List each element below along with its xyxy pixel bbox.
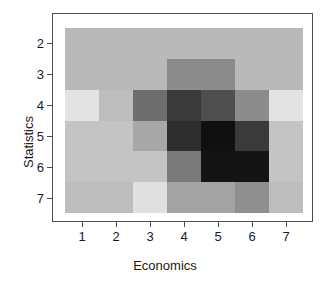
y-tick-mark-4 (47, 105, 52, 106)
heatmap-cell-x6-y7 (235, 182, 269, 213)
heatmap-cell-x2-y2 (99, 28, 133, 59)
x-tick-mark-3 (150, 222, 151, 227)
heatmap-cell-x1-y3 (65, 59, 99, 90)
heatmap-cell-x7-y4 (269, 90, 303, 121)
x-tick-mark-4 (184, 222, 185, 227)
y-tick-mark-7 (47, 198, 52, 199)
x-tick-label-4: 4 (180, 230, 187, 243)
x-tick-label-1: 1 (78, 230, 85, 243)
heatmap-cell-x7-y3 (269, 59, 303, 90)
heatmap-cell-x5-y3 (201, 59, 235, 90)
heatmap-cell-x4-y4 (167, 90, 201, 121)
y-tick-mark-6 (47, 167, 52, 168)
x-tick-mark-1 (82, 222, 83, 227)
heatmap-cell-x7-y7 (269, 182, 303, 213)
heatmap-cell-x1-y2 (65, 28, 99, 59)
heatmap-figure: Statistics 234567 1234567 Economics (0, 0, 330, 284)
y-tick-label-6: 6 (37, 160, 44, 173)
x-tick-label-6: 6 (248, 230, 255, 243)
heatmap-cell-x6-y5 (235, 121, 269, 152)
heatmap-cell-x3-y5 (133, 121, 167, 152)
y-axis: Statistics 234567 (0, 0, 52, 284)
x-tick-label-5: 5 (214, 230, 221, 243)
heatmap-cell-x4-y3 (167, 59, 201, 90)
heatmap-cell-x4-y5 (167, 121, 201, 152)
heatmap-cell-x1-y6 (65, 151, 99, 182)
heatmap-cell-x5-y2 (201, 28, 235, 59)
x-tick-mark-6 (252, 222, 253, 227)
heatmap-cell-x6-y6 (235, 151, 269, 182)
heatmap-cell-x5-y7 (201, 182, 235, 213)
heatmap-cell-x7-y2 (269, 28, 303, 59)
x-tick-mark-2 (116, 222, 117, 227)
heatmap-cell-x3-y6 (133, 151, 167, 182)
y-tick-mark-2 (47, 43, 52, 44)
heatmap-cell-x1-y4 (65, 90, 99, 121)
heatmap-cell-x4-y7 (167, 182, 201, 213)
x-tick-mark-7 (286, 222, 287, 227)
y-tick-label-4: 4 (37, 99, 44, 112)
x-tick-label-7: 7 (282, 230, 289, 243)
heatmap-cell-x6-y2 (235, 28, 269, 59)
heatmap-cell-x7-y5 (269, 121, 303, 152)
heatmap-cell-x2-y7 (99, 182, 133, 213)
heatmap-cell-x2-y5 (99, 121, 133, 152)
heatmap-cell-x4-y6 (167, 151, 201, 182)
heatmap-cell-x5-y6 (201, 151, 235, 182)
heatmap-cell-x1-y7 (65, 182, 99, 213)
heatmap-cell-x3-y7 (133, 182, 167, 213)
heatmap-cell-x5-y5 (201, 121, 235, 152)
y-axis-title: Statistics (21, 116, 36, 168)
heatmap-cell-x4-y2 (167, 28, 201, 59)
y-tick-label-7: 7 (37, 191, 44, 204)
y-tick-label-2: 2 (37, 37, 44, 50)
x-tick-mark-5 (218, 222, 219, 227)
heatmap-cell-x2-y4 (99, 90, 133, 121)
heatmap-cell-x5-y4 (201, 90, 235, 121)
heatmap-cell-x7-y6 (269, 151, 303, 182)
x-tick-label-3: 3 (146, 230, 153, 243)
y-tick-label-5: 5 (37, 129, 44, 142)
y-tick-mark-3 (47, 74, 52, 75)
y-tick-mark-5 (47, 136, 52, 137)
y-tick-label-3: 3 (37, 68, 44, 81)
heatmap-cell-x3-y3 (133, 59, 167, 90)
x-axis-title: Economics (0, 258, 330, 273)
heatmap-raster (65, 28, 303, 213)
heatmap-cell-x6-y4 (235, 90, 269, 121)
x-tick-label-2: 2 (112, 230, 119, 243)
heatmap-cell-x2-y3 (99, 59, 133, 90)
heatmap-cell-x3-y4 (133, 90, 167, 121)
heatmap-cell-x2-y6 (99, 151, 133, 182)
heatmap-cell-x1-y5 (65, 121, 99, 152)
heatmap-cell-x6-y3 (235, 59, 269, 90)
heatmap-cell-x3-y2 (133, 28, 167, 59)
